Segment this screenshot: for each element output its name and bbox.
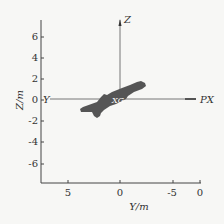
z-arrow-icon <box>119 19 122 26</box>
x-tick: 5 <box>65 187 71 198</box>
chart: 6 4 2 0 -2 -4 -6 5 0 -5 0 Y/m Z/m Z PX Y… <box>0 0 224 224</box>
y-tick: -6 <box>28 158 38 169</box>
y-tick: -4 <box>28 136 38 147</box>
x-axis-label: Y/m <box>129 201 148 212</box>
y-tick: 6 <box>32 31 38 42</box>
px-annotation: PX <box>199 94 215 105</box>
body-label: XG <box>111 96 125 105</box>
y-axis-annotation: Y <box>43 94 51 105</box>
y-tick: -2 <box>28 115 38 126</box>
x-tick: -5 <box>167 187 177 198</box>
y-tick: 0 <box>32 94 38 105</box>
y-tick: 4 <box>32 52 38 63</box>
x-tick: 0 <box>117 187 123 198</box>
y-tick: 2 <box>32 73 38 84</box>
y-axis-label: Z/m <box>14 90 25 111</box>
x-tick: 0 <box>197 187 203 198</box>
z-axis-annotation: Z <box>123 14 132 25</box>
